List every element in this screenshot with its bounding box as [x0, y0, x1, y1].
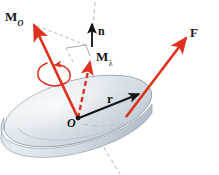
label-moment-about-point: MO	[5, 10, 23, 27]
disk-body	[0, 61, 159, 160]
label-F-symbol: F	[190, 25, 198, 40]
label-n-symbol: n	[98, 24, 105, 38]
label-O-symbol: O	[67, 116, 76, 130]
vector-F	[126, 38, 186, 117]
label-force: F	[190, 26, 198, 39]
label-unit-normal: n	[98, 25, 105, 37]
projection-construction-lines	[37, 26, 90, 62]
origin-point-dot	[76, 116, 81, 121]
label-Mo-subscript: O	[17, 19, 23, 28]
figure-canvas	[0, 0, 219, 175]
label-Ml-symbol: M	[96, 49, 108, 64]
label-Ml-subscript: λ	[109, 59, 113, 68]
label-position-vector: r	[107, 92, 113, 105]
moment-about-axis-figure: MO n Mλ F r O	[0, 0, 219, 175]
label-r-symbol: r	[107, 91, 113, 106]
label-origin-point: O	[67, 117, 76, 129]
label-moment-about-axis: Mλ	[96, 50, 112, 67]
label-Mo-symbol: M	[5, 9, 17, 24]
